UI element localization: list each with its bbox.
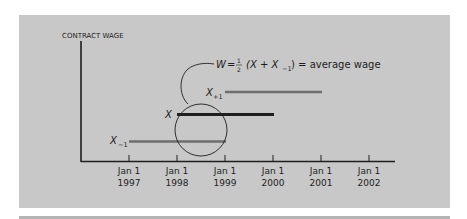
svg-text:X: X (109, 135, 118, 146)
svg-text:1: 1 (237, 57, 241, 64)
contract-label-x-minus-1: X −1 (109, 135, 128, 149)
tick-label-1997-line1: Jan 1 (117, 166, 140, 176)
x-axis-tick-labels: Jan 1 1997 Jan 1 1998 Jan 1 1999 Jan 1 2… (117, 166, 381, 188)
svg-text:) = average wage: ) = average wage (291, 59, 381, 70)
tick-label-1999-line2: 1999 (214, 178, 237, 188)
tick-label-2000-line1: Jan 1 (261, 166, 284, 176)
svg-text:2: 2 (237, 66, 241, 73)
tick-label-2001-line1: Jan 1 (309, 166, 332, 176)
svg-text:−1: −1 (118, 141, 128, 149)
tick-label-2002-line1: Jan 1 (357, 166, 380, 176)
svg-text:+1: +1 (213, 93, 223, 101)
svg-text:(X + X: (X + X (246, 59, 279, 70)
tick-label-2002-line2: 2002 (358, 178, 381, 188)
tick-label-1997-line2: 1997 (118, 178, 141, 188)
tick-label-1999-line1: Jan 1 (213, 166, 236, 176)
y-axis-label: CONTRACT WAGE (62, 32, 124, 40)
tick-label-2000-line2: 2000 (262, 178, 285, 188)
average-wage-circle (175, 104, 227, 156)
tick-label-1998-line1: Jan 1 (165, 166, 188, 176)
svg-text:W: W (216, 59, 227, 70)
contract-label-x: X (164, 109, 173, 120)
tick-label-1998-line2: 1998 (166, 178, 189, 188)
svg-text:=: = (227, 59, 235, 70)
contract-label-x-plus-1: X +1 (205, 87, 223, 101)
x-axis-ticks (129, 155, 369, 161)
svg-text:X: X (164, 109, 173, 120)
overlapping-contracts-diagram: CONTRACT WAGE Jan 1 1997 Jan 1 1998 Jan … (0, 0, 467, 219)
tick-label-2001-line2: 2001 (310, 178, 333, 188)
average-wage-formula: W = 1 2 (X + X −1 ) = average wage (216, 57, 381, 73)
